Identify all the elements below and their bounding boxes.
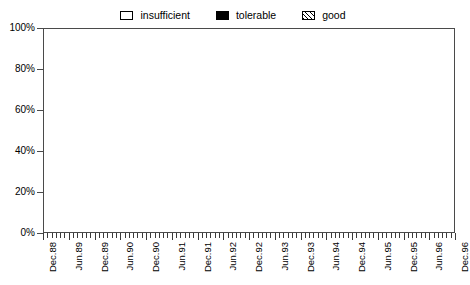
x-axis-tick bbox=[206, 233, 207, 238]
x-tick-label: Jun.93 bbox=[279, 242, 290, 271]
x-tick-label: Dec.95 bbox=[408, 242, 419, 272]
x-axis-tick bbox=[193, 233, 194, 238]
legend-swatch-insufficient-icon bbox=[120, 11, 133, 20]
x-axis-tick bbox=[245, 233, 246, 238]
x-axis-tick bbox=[313, 233, 314, 238]
x-tick-label: Jun.92 bbox=[227, 242, 238, 271]
x-axis-tick bbox=[219, 233, 220, 238]
x-axis-tick bbox=[262, 233, 263, 238]
x-axis-tick bbox=[339, 233, 340, 238]
x-axis-tick bbox=[47, 233, 48, 238]
x-axis-tick-major bbox=[198, 233, 199, 240]
x-axis-tick-major bbox=[352, 233, 353, 240]
x-axis-tick bbox=[318, 233, 319, 238]
x-axis-tick bbox=[176, 233, 177, 238]
x-axis-tick-major bbox=[69, 233, 70, 240]
x-axis-tick bbox=[348, 233, 349, 238]
x-axis-tick bbox=[335, 233, 336, 238]
x-axis-tick bbox=[288, 233, 289, 238]
y-axis-tick: 20% bbox=[0, 192, 43, 193]
y-tick-label: 80% bbox=[15, 63, 35, 74]
x-axis-tick bbox=[446, 233, 447, 238]
x-axis-tick-major bbox=[95, 233, 96, 240]
y-tick-label: 0% bbox=[21, 227, 35, 238]
x-axis-tick bbox=[189, 233, 190, 238]
legend-swatch-tolerable-icon bbox=[216, 11, 229, 20]
x-tick-label: Dec.96 bbox=[459, 242, 470, 272]
x-axis-tick bbox=[107, 233, 108, 238]
x-tick-label: Dec.93 bbox=[305, 242, 316, 272]
x-axis: Dec.88Jun.89Dec.89Jun.90Dec.90Jun.91Dec.… bbox=[43, 233, 455, 285]
x-tick-label: Jun.91 bbox=[176, 242, 187, 271]
legend-item-good: good bbox=[302, 10, 345, 21]
x-axis-tick bbox=[99, 233, 100, 238]
x-axis-tick bbox=[408, 233, 409, 238]
x-axis-tick bbox=[253, 233, 254, 238]
x-axis-tick bbox=[73, 233, 74, 238]
x-axis-tick bbox=[56, 233, 57, 238]
x-axis-tick bbox=[112, 233, 113, 238]
x-axis-tick bbox=[438, 233, 439, 238]
x-axis-tick bbox=[52, 233, 53, 238]
x-axis-tick bbox=[150, 233, 151, 238]
x-axis-tick-major bbox=[249, 233, 250, 240]
x-axis-tick bbox=[279, 233, 280, 238]
x-axis-tick bbox=[425, 233, 426, 238]
x-axis-tick-major bbox=[172, 233, 173, 240]
x-axis-tick bbox=[210, 233, 211, 238]
x-axis-tick bbox=[365, 233, 366, 238]
y-tick-label: 100% bbox=[9, 22, 35, 33]
legend-item-tolerable: tolerable bbox=[216, 10, 276, 21]
legend-label-good: good bbox=[322, 10, 345, 21]
y-axis-tick: 80% bbox=[0, 69, 43, 70]
y-tick-label: 40% bbox=[15, 145, 35, 156]
x-axis-tick bbox=[296, 233, 297, 238]
x-axis-tick bbox=[228, 233, 229, 238]
x-axis-tick bbox=[416, 233, 417, 238]
x-axis-tick-major bbox=[146, 233, 147, 240]
x-axis-tick bbox=[369, 233, 370, 238]
x-axis-tick bbox=[395, 233, 396, 238]
x-axis-tick bbox=[258, 233, 259, 238]
x-tick-label: Jun.89 bbox=[73, 242, 84, 271]
y-axis-tick: 40% bbox=[0, 151, 43, 152]
chart-legend: insufficient tolerable good bbox=[0, 6, 466, 24]
x-axis-tick bbox=[103, 233, 104, 238]
x-tick-label: Jun.95 bbox=[382, 242, 393, 271]
y-tick-label: 20% bbox=[15, 186, 35, 197]
x-axis-tick bbox=[159, 233, 160, 238]
y-tick-label: 60% bbox=[15, 104, 35, 115]
x-axis-tick bbox=[64, 233, 65, 238]
x-axis-tick bbox=[155, 233, 156, 238]
x-axis-tick bbox=[86, 233, 87, 238]
x-axis-tick bbox=[236, 233, 237, 238]
x-axis-tick bbox=[142, 233, 143, 238]
y-axis-tick: 0% bbox=[0, 233, 43, 234]
x-axis-tick bbox=[283, 233, 284, 238]
x-tick-label: Jun.94 bbox=[330, 242, 341, 271]
x-axis-tick bbox=[60, 233, 61, 238]
x-axis-tick bbox=[343, 233, 344, 238]
x-axis-tick-major bbox=[43, 233, 44, 240]
x-axis-tick bbox=[361, 233, 362, 238]
legend-label-tolerable: tolerable bbox=[236, 10, 276, 21]
x-tick-label: Dec.90 bbox=[150, 242, 161, 272]
x-axis-tick bbox=[305, 233, 306, 238]
x-axis-tick bbox=[137, 233, 138, 238]
x-axis-tick bbox=[386, 233, 387, 238]
x-axis-tick-major bbox=[223, 233, 224, 240]
x-axis-tick bbox=[442, 233, 443, 238]
x-axis-tick bbox=[270, 233, 271, 238]
x-tick-label: Dec.91 bbox=[202, 242, 213, 272]
x-axis-tick-major bbox=[275, 233, 276, 240]
x-axis-tick bbox=[451, 233, 452, 238]
legend-item-insufficient: insufficient bbox=[120, 10, 189, 21]
x-axis-tick-major bbox=[429, 233, 430, 240]
x-axis-tick bbox=[90, 233, 91, 238]
x-axis-tick bbox=[202, 233, 203, 238]
x-axis-tick bbox=[391, 233, 392, 238]
x-axis-tick bbox=[129, 233, 130, 238]
x-axis-tick bbox=[77, 233, 78, 238]
x-axis-tick bbox=[266, 233, 267, 238]
